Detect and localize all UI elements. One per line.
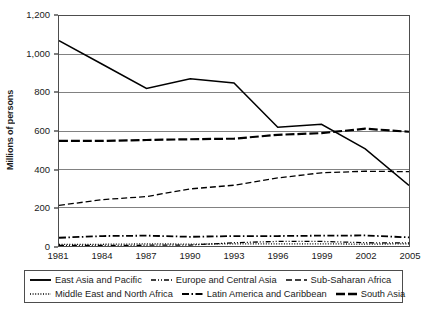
series-line: [59, 41, 409, 186]
y-axis-tick-labels: 02004006008001,0001,200: [14, 10, 54, 252]
x-tick-label: 1990: [179, 250, 200, 262]
legend-row-2: Middle East and North AfricaLatin Americ…: [30, 287, 398, 301]
x-tick-label: 1984: [91, 250, 112, 262]
y-tick-label: 200: [34, 203, 50, 213]
legend-row-1: East Asia and PacificEurope and Central …: [30, 273, 398, 287]
legend-swatch-dash-dot-dot: [151, 276, 172, 284]
legend-label: Sub-Saharan Africa: [311, 275, 392, 285]
legend-label: Europe and Central Asia: [176, 275, 277, 285]
legend-swatch-dashed: [286, 276, 307, 284]
legend-item[interactable]: East Asia and Pacific: [30, 275, 151, 285]
x-tick-label: 1981: [47, 250, 68, 262]
y-tick-label: 400: [34, 165, 50, 175]
plot-area: [58, 15, 410, 247]
x-tick-label: 1996: [267, 250, 288, 262]
legend-item[interactable]: Middle East and North Africa: [30, 289, 182, 299]
legend-line-icon: [336, 290, 357, 298]
legend-label: Latin America and Caribbean: [207, 289, 327, 299]
legend-swatch-long-dash-dot: [336, 290, 357, 298]
x-tick-label: 2002: [355, 250, 376, 262]
legend-item[interactable]: Latin America and Caribbean: [182, 289, 336, 299]
legend-line-icon: [30, 290, 51, 298]
chart-legend: East Asia and PacificEurope and Central …: [24, 270, 403, 303]
legend-item[interactable]: Europe and Central Asia: [151, 275, 286, 285]
legend-item[interactable]: Sub-Saharan Africa: [286, 275, 401, 285]
y-tick-label: 600: [34, 126, 50, 136]
y-tick-label: 1,200: [26, 10, 50, 20]
y-tick-label: 800: [34, 87, 50, 97]
legend-line-icon: [286, 276, 307, 284]
y-tick-label: 1,000: [26, 49, 50, 59]
legend-label: South Asia: [361, 289, 405, 299]
series-line: [59, 171, 409, 205]
legend-label: East Asia and Pacific: [55, 275, 142, 285]
legend-swatch-dash-dot: [182, 290, 203, 298]
x-tick-label: 1993: [223, 250, 244, 262]
legend-swatch-solid: [30, 276, 51, 284]
legend-line-icon: [30, 276, 51, 284]
poverty-line-chart: Millions of persons 02004006008001,0001,…: [0, 0, 427, 313]
legend-label: Middle East and North Africa: [55, 289, 173, 299]
x-axis-tick-labels: 198119841987199019931996199920022005: [58, 250, 410, 266]
x-tick-label: 1987: [135, 250, 156, 262]
legend-line-icon: [182, 290, 203, 298]
x-tick-label: 2005: [399, 250, 420, 262]
x-tick-label: 1999: [311, 250, 332, 262]
legend-item[interactable]: South Asia: [336, 289, 414, 299]
chart-svg: [59, 16, 409, 246]
legend-swatch-dotted: [30, 290, 51, 298]
series-line: [59, 235, 409, 237]
legend-line-icon: [151, 276, 172, 284]
